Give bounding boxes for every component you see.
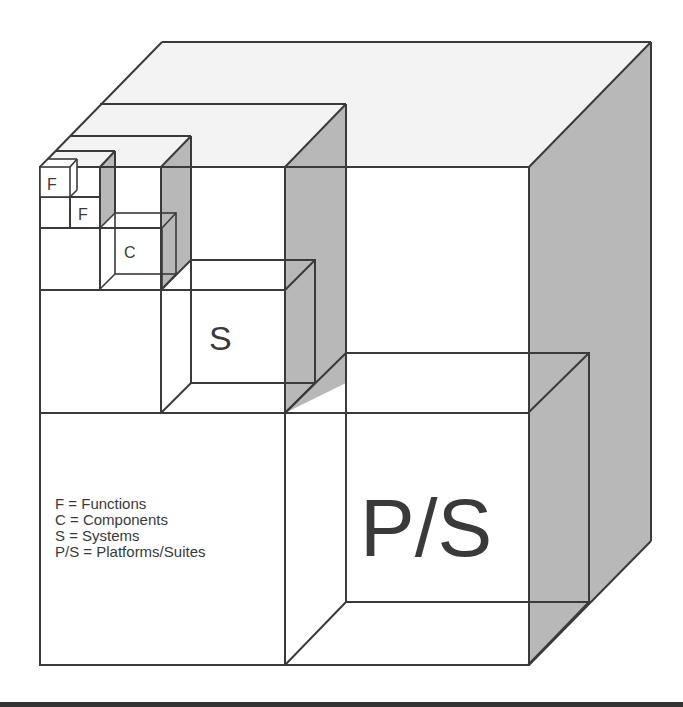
legend-item-platforms-suites: P/S = Platforms/Suites	[55, 544, 205, 560]
legend-item-systems: S = Systems	[55, 528, 205, 544]
bottom-divider	[0, 702, 683, 707]
legend-item-components: C = Components	[55, 512, 205, 528]
function-label-1: F	[47, 176, 57, 193]
function-label-2: F	[78, 206, 88, 223]
nested-cubes-diagram: F F C S P/S	[0, 0, 683, 707]
legend-item-functions: F = Functions	[55, 496, 205, 512]
system-label: S	[209, 319, 232, 357]
legend: F = Functions C = Components S = Systems…	[55, 496, 205, 560]
function-cube-small-edges	[40, 159, 77, 197]
component-label: C	[124, 244, 136, 261]
platform-suite-label: P/S	[360, 482, 492, 573]
system-cube-back	[191, 260, 285, 383]
